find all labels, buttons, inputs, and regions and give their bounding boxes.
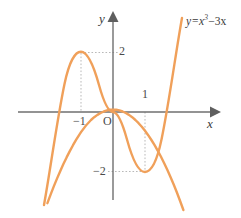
cubic-curve-display-final [0, 0, 241, 218]
x-tick-label-neg1: −1 [73, 115, 86, 127]
function-equation-label: y=x3−3x [186, 16, 226, 28]
y-axis-label: y [99, 12, 105, 25]
x-axis-label: x [207, 117, 213, 130]
equation-lead: y=x [186, 15, 204, 27]
y-tick-label-2: 2 [119, 45, 125, 57]
origin-label: O [103, 115, 112, 127]
y-tick-label-neg2: −2 [93, 165, 106, 177]
cubic-curve-graph-display [44, 18, 182, 205]
equation-tail: −3x [208, 15, 226, 27]
cubic-function-graph-figure: y x O −1 1 2 −2 y=x3−3x [0, 0, 241, 218]
x-tick-label-1: 1 [142, 88, 148, 100]
